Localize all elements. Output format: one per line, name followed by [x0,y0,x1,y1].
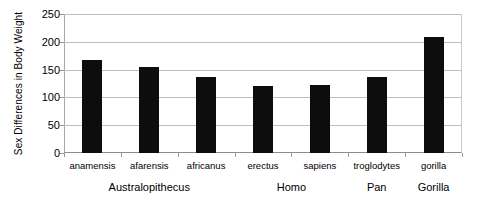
y-tick-mark [60,14,64,15]
group-label: Gorilla [418,181,450,193]
bar [310,85,330,153]
bar [424,37,444,153]
bar [253,86,273,153]
y-tick-mark [60,70,64,71]
bar [139,67,159,153]
group-label: Pan [367,181,387,193]
x-tick-mark [64,153,65,157]
y-tick-label: 200 [42,36,60,48]
x-tick-mark [121,153,122,157]
y-tick-label: 250 [42,8,60,20]
category-label: troglodytes [353,160,399,171]
group-label: Australopithecus [109,181,190,193]
y-tick-label: 150 [42,64,60,76]
x-tick-mark [348,153,349,157]
bar-chart: Sex Differences in Body Weight 050100150… [0,0,477,213]
bar [82,60,102,153]
y-tick-label: 0 [54,147,60,159]
gridline [64,42,462,43]
y-tick-mark [60,97,64,98]
y-tick-mark [60,125,64,126]
bar [196,77,216,153]
x-tick-mark [462,153,463,157]
y-axis-title: Sex Differences in Body Weight [13,4,24,164]
y-tick-label: 100 [42,91,60,103]
category-label: gorilla [421,160,446,171]
category-label: erectus [247,160,278,171]
x-tick-mark [235,153,236,157]
gridline [64,14,462,15]
plot-area: 050100150200250 [64,14,462,153]
y-tick-label: 50 [48,119,60,131]
x-tick-mark [291,153,292,157]
x-tick-mark [178,153,179,157]
category-label: anamensis [69,160,115,171]
gridline [64,70,462,71]
x-tick-mark [405,153,406,157]
category-label: africanus [187,160,226,171]
category-label: afarensis [130,160,169,171]
y-tick-mark [60,42,64,43]
group-label: Homo [277,181,306,193]
category-label: sapiens [303,160,336,171]
bar [367,77,387,153]
